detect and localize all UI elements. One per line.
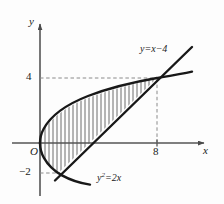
y-tick-label-4: 4 <box>26 71 32 82</box>
parabola-label-rest: =2x <box>105 172 121 183</box>
line-equation-label: y=x−4 <box>140 44 167 54</box>
y-tick-label-minus-2: −2 <box>19 166 31 177</box>
y-axis-label: y <box>29 16 34 27</box>
origin-label: O <box>30 146 38 157</box>
figure-container: y x O 4 −2 8 y=x−4 y2=2x <box>0 0 224 204</box>
x-tick-label-8: 8 <box>153 146 159 157</box>
x-axis-label: x <box>203 145 208 156</box>
parabola-equation-label: y2=2x <box>97 172 121 183</box>
